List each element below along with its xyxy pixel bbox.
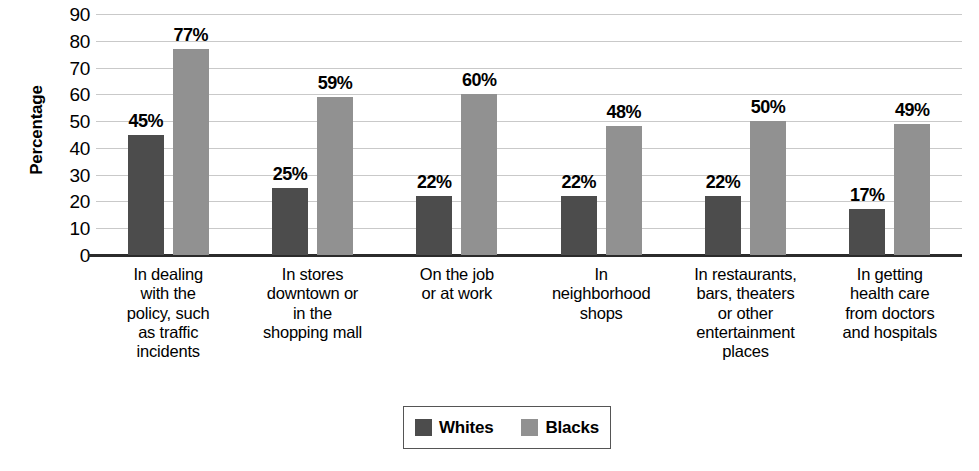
bar-column: 17% bbox=[849, 14, 885, 255]
bar-blacks[interactable] bbox=[461, 94, 497, 255]
category-label: On the jobor at work bbox=[385, 265, 529, 361]
bar-column: 49% bbox=[894, 14, 930, 255]
bar-pair: 22%48% bbox=[529, 14, 673, 255]
bar-blacks[interactable] bbox=[606, 126, 642, 255]
bar-group: 22%50% bbox=[673, 14, 817, 255]
category-label-line: with the bbox=[100, 284, 236, 303]
category-label: In restaurants,bars, theatersor otherent… bbox=[673, 265, 817, 361]
bar-whites[interactable] bbox=[561, 196, 597, 255]
bar-value-label: 59% bbox=[318, 73, 353, 94]
category-label-line: in the bbox=[244, 304, 380, 323]
category-label-line: downtown or bbox=[244, 284, 380, 303]
category-label-line: shopping mall bbox=[244, 323, 380, 342]
y-axis-tick-label: 10 bbox=[56, 219, 90, 238]
category-label: Inneighborhoodshops bbox=[529, 265, 673, 361]
y-axis-tick-label: 0 bbox=[56, 246, 90, 265]
category-label: In gettinghealth carefrom doctorsand hos… bbox=[818, 265, 962, 361]
category-label-line: In dealing bbox=[100, 265, 236, 284]
bar-group: 22%60% bbox=[385, 14, 529, 255]
bar-column: 60% bbox=[461, 14, 497, 255]
bar-column: 50% bbox=[750, 14, 786, 255]
bar-column: 25% bbox=[272, 14, 308, 255]
bar-pair: 17%49% bbox=[818, 14, 962, 255]
bar-group: 17%49% bbox=[818, 14, 962, 255]
category-label-line: On the job bbox=[389, 265, 525, 284]
category-label-line: entertainment bbox=[677, 323, 813, 342]
bar-group: 45%77% bbox=[96, 14, 240, 255]
bar-groups: 45%77%25%59%22%60%22%48%22%50%17%49% bbox=[96, 14, 962, 255]
category-label-line: In restaurants, bbox=[677, 265, 813, 284]
bar-value-label: 22% bbox=[417, 172, 452, 193]
category-label-line: policy, such bbox=[100, 304, 236, 323]
bar-whites[interactable] bbox=[705, 196, 741, 255]
bar-column: 45% bbox=[128, 14, 164, 255]
bar-value-label: 17% bbox=[850, 185, 885, 206]
category-label-line: In getting bbox=[822, 265, 958, 284]
bar-pair: 22%50% bbox=[673, 14, 817, 255]
legend-swatch-icon bbox=[521, 419, 538, 436]
y-axis-tick-label: 20 bbox=[56, 192, 90, 211]
bar-column: 59% bbox=[317, 14, 353, 255]
bar-group: 22%48% bbox=[529, 14, 673, 255]
legend-item-blacks[interactable]: Blacks bbox=[521, 418, 599, 438]
bar-pair: 22%60% bbox=[385, 14, 529, 255]
y-axis-title: Percentage bbox=[27, 30, 47, 230]
bar-column: 22% bbox=[416, 14, 452, 255]
category-label-line: In stores bbox=[244, 265, 380, 284]
legend-label: Blacks bbox=[545, 418, 599, 438]
category-label-line: bars, theaters bbox=[677, 284, 813, 303]
legend-item-whites[interactable]: Whites bbox=[415, 418, 494, 438]
bar-value-label: 50% bbox=[751, 97, 786, 118]
category-label-line: or at work bbox=[389, 284, 525, 303]
bar-column: 48% bbox=[606, 14, 642, 255]
y-axis-tick-labels: 9080706050403020100 bbox=[50, 14, 90, 255]
bar-whites[interactable] bbox=[272, 188, 308, 255]
bar-whites[interactable] bbox=[416, 196, 452, 255]
bar-value-label: 22% bbox=[706, 172, 741, 193]
category-label-line: In bbox=[533, 265, 669, 284]
bar-column: 22% bbox=[705, 14, 741, 255]
bar-whites[interactable] bbox=[849, 209, 885, 255]
bar-whites[interactable] bbox=[128, 135, 164, 256]
bar-pair: 25%59% bbox=[240, 14, 384, 255]
y-axis-tick-label: 40 bbox=[56, 138, 90, 157]
bar-value-label: 22% bbox=[561, 172, 596, 193]
bar-column: 77% bbox=[173, 14, 209, 255]
bar-pair: 45%77% bbox=[96, 14, 240, 255]
chart-legend: WhitesBlacks bbox=[403, 406, 611, 449]
bar-blacks[interactable] bbox=[750, 121, 786, 255]
y-axis-tick-label: 80 bbox=[56, 31, 90, 50]
bar-value-label: 48% bbox=[606, 102, 641, 123]
bar-column: 22% bbox=[561, 14, 597, 255]
category-label-line: incidents bbox=[100, 342, 236, 361]
y-axis-tick-label: 90 bbox=[56, 5, 90, 24]
category-label-line: or other bbox=[677, 304, 813, 323]
category-label-line: as traffic bbox=[100, 323, 236, 342]
y-axis-tick-label: 50 bbox=[56, 112, 90, 131]
category-label-line: neighborhood bbox=[533, 284, 669, 303]
bar-value-label: 77% bbox=[173, 25, 208, 46]
bar-value-label: 49% bbox=[895, 100, 930, 121]
y-axis-tick-label: 60 bbox=[56, 85, 90, 104]
bar-blacks[interactable] bbox=[317, 97, 353, 255]
bar-chart: Percentage 9080706050403020100 45%77%25%… bbox=[0, 0, 979, 471]
x-axis-category-labels: In dealingwith thepolicy, suchas traffic… bbox=[96, 265, 962, 361]
legend-label: Whites bbox=[439, 418, 494, 438]
y-axis-tick-label: 70 bbox=[56, 58, 90, 77]
bar-blacks[interactable] bbox=[894, 124, 930, 255]
bar-value-label: 60% bbox=[462, 70, 497, 91]
y-axis-tick-label: 30 bbox=[56, 165, 90, 184]
category-label: In dealingwith thepolicy, suchas traffic… bbox=[96, 265, 240, 361]
category-label-line: places bbox=[677, 342, 813, 361]
category-label: In storesdowntown orin theshopping mall bbox=[240, 265, 384, 361]
bar-value-label: 25% bbox=[273, 164, 308, 185]
bar-blacks[interactable] bbox=[173, 49, 209, 255]
category-label-line: from doctors bbox=[822, 304, 958, 323]
bar-value-label: 45% bbox=[128, 111, 163, 132]
legend-swatch-icon bbox=[415, 419, 432, 436]
category-label-line: and hospitals bbox=[822, 323, 958, 342]
category-label-line: health care bbox=[822, 284, 958, 303]
bar-group: 25%59% bbox=[240, 14, 384, 255]
category-label-line: shops bbox=[533, 304, 669, 323]
